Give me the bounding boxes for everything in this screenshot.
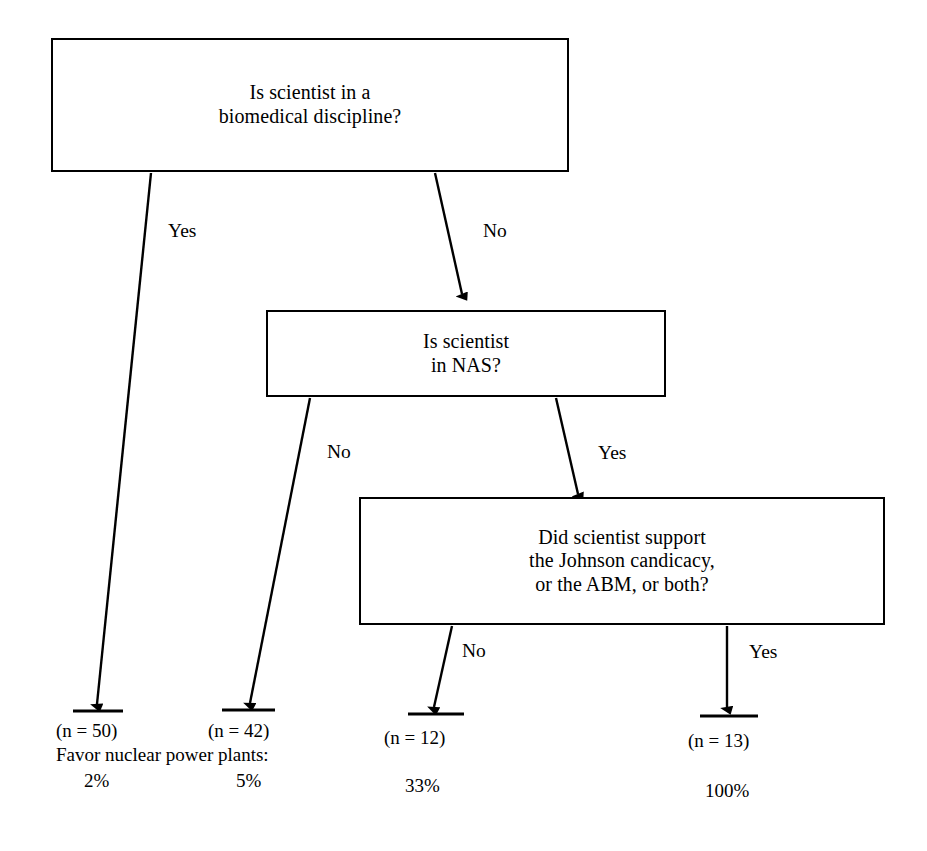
node-root[interactable]: Is scientist in a biomedical discipline? [51, 38, 569, 172]
node-support-label: Did scientist support the Johnson candic… [523, 526, 721, 597]
node-nas[interactable]: Is scientist in NAS? [266, 310, 666, 397]
node-nas-label: Is scientist in NAS? [417, 330, 515, 377]
edge-root-yes [97, 173, 151, 704]
edge-root-no [435, 173, 462, 294]
edge-label-root-yes: Yes [168, 221, 196, 241]
leaf-count-4: (n = 13) [688, 731, 749, 750]
edge-label-nas-yes: Yes [598, 443, 626, 463]
leaf-percent-2: 5% [236, 771, 261, 790]
edge-label-root-no: No [483, 221, 507, 241]
leaf-count-1: (n = 50) [56, 721, 117, 740]
edge-label-nas-no: No [327, 442, 351, 462]
leaf-percent-3: 33% [405, 776, 440, 795]
edge-label-support-no: No [462, 641, 486, 661]
leaf-count-2: (n = 42) [208, 721, 269, 740]
caption-favor-nuclear: Favor nuclear power plants: [56, 745, 269, 764]
node-support[interactable]: Did scientist support the Johnson candic… [359, 497, 885, 625]
edge-nas-yes [556, 398, 578, 494]
leaf-count-3: (n = 12) [384, 728, 445, 747]
diagram-canvas: Is scientist in a biomedical discipline?… [0, 0, 927, 851]
edge-sup-no [434, 626, 452, 707]
leaf-percent-4: 100% [705, 781, 749, 800]
node-root-label: Is scientist in a biomedical discipline? [213, 81, 408, 128]
edge-label-support-yes: Yes [749, 642, 777, 662]
leaf-percent-1: 2% [84, 771, 109, 790]
edge-nas-no [250, 398, 310, 703]
